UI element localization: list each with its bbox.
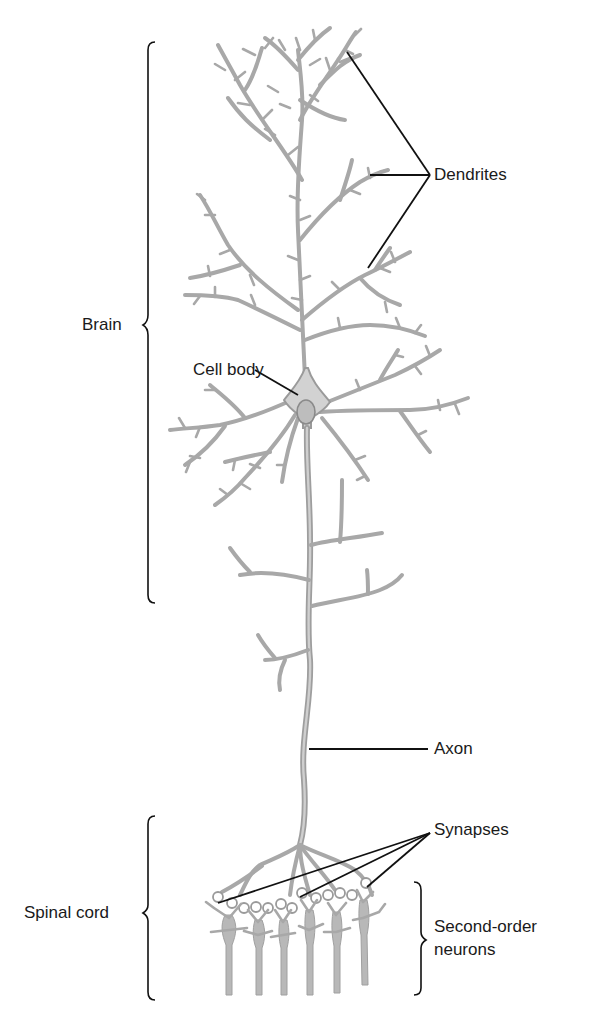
brain-brace	[143, 42, 155, 603]
nucleus	[297, 400, 315, 424]
leader-lines	[218, 52, 430, 903]
synapses-label: Synapses	[434, 820, 509, 840]
axon	[222, 428, 402, 895]
brain-label: Brain	[82, 315, 122, 335]
spinal-cord-brace	[143, 816, 155, 1000]
dendrites-label: Dendrites	[434, 165, 507, 185]
second-order-neurons-label-line2: neurons	[434, 940, 495, 960]
axon-label: Axon	[434, 739, 473, 759]
second-order-neurons-label-line1: Second-order	[434, 917, 537, 937]
spinal-cord-label: Spinal cord	[24, 903, 109, 923]
cell-body-label: Cell body	[193, 360, 264, 380]
apical-dendrites	[185, 28, 425, 378]
second-order-brace	[414, 882, 426, 995]
neuron-diagram: .br { fill: none; stroke: #a8a8a8; strok…	[0, 0, 589, 1012]
